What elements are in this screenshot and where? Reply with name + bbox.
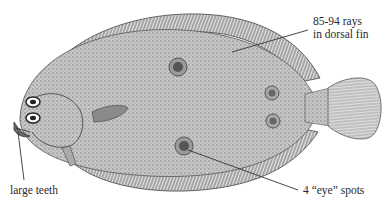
- dorsal-fin-label-line-2: in dorsal fin: [313, 28, 369, 41]
- dorsal-fin-label: 85-94 rays in dorsal fin: [313, 15, 369, 41]
- fish-illustration: 85-94 rays in dorsal fin large teeth 4 “…: [0, 0, 384, 210]
- eye-spots-label: 4 “eye” spots: [303, 184, 364, 197]
- caudal-peduncle: [305, 88, 330, 126]
- teeth-leader-line: [18, 132, 24, 180]
- eye-spots-label-text: 4 “eye” spots: [303, 184, 364, 197]
- tail-fin: [328, 78, 381, 139]
- dorsal-fin-label-line-1: 85-94 rays: [313, 15, 369, 28]
- teeth-label: large teeth: [10, 184, 58, 197]
- teeth-label-text: large teeth: [10, 184, 58, 197]
